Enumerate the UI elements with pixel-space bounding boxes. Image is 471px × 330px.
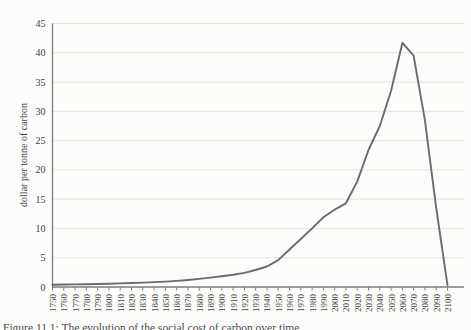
x-tick-label: 1790 (93, 294, 103, 313)
y-tick-label: 10 (36, 223, 46, 234)
x-tick-label: 1980 (308, 294, 318, 313)
carbon-price-chart: 0510152025303540451750176017701780179018… (0, 0, 471, 330)
x-tick-label: 1850 (161, 294, 171, 313)
x-tick-label: 1750 (48, 294, 58, 313)
x-tick-label: 2010 (341, 294, 351, 313)
x-tick-label: 1830 (138, 294, 148, 313)
x-tick-label: 1780 (82, 294, 92, 313)
y-tick-label: 45 (36, 18, 46, 29)
x-tick-label: 1940 (262, 294, 272, 313)
carbon-price-line (53, 43, 448, 285)
x-tick-label: 1840 (150, 294, 160, 313)
y-tick-label: 0 (41, 282, 46, 293)
x-tick-label: 1890 (206, 294, 216, 313)
x-tick-label: 2080 (420, 294, 430, 313)
x-tick-label: 1920 (240, 294, 250, 313)
x-tick-label: 1900 (217, 294, 227, 313)
x-tick-label: 1770 (71, 294, 81, 313)
x-tick-label: 1910 (229, 294, 239, 313)
x-tick-label: 2000 (330, 294, 340, 313)
figure: 0510152025303540451750176017701780179018… (0, 0, 471, 330)
x-tick-label: 1930 (251, 294, 261, 313)
x-tick-label: 1820 (127, 294, 137, 313)
x-tick-label: 2050 (387, 294, 397, 313)
x-tick-label: 2090 (432, 294, 442, 313)
x-tick-label: 1950 (274, 294, 284, 313)
x-tick-label: 2100 (443, 294, 453, 313)
x-tick-label: 1810 (116, 294, 126, 313)
y-tick-label: 30 (36, 106, 46, 117)
x-tick-label: 1760 (59, 294, 69, 313)
x-tick-label: 1860 (172, 294, 182, 313)
x-tick-label: 1970 (296, 294, 306, 313)
x-tick-label: 2070 (409, 294, 419, 313)
x-tick-label: 1880 (195, 294, 205, 313)
y-tick-label: 25 (36, 135, 46, 146)
y-tick-label: 20 (36, 164, 46, 175)
x-tick-label: 2030 (364, 294, 374, 313)
y-tick-label: 35 (36, 77, 46, 88)
y-axis-title: dollar per tonne of carbon (18, 103, 29, 207)
x-tick-label: 2040 (375, 294, 385, 313)
x-tick-label: 2020 (353, 294, 363, 313)
y-tick-label: 40 (36, 47, 46, 58)
x-tick-label: 1960 (285, 294, 295, 313)
y-tick-label: 5 (41, 252, 46, 263)
x-tick-label: 1800 (104, 294, 114, 313)
figure-caption: Figure 11.1: The evolution of the social… (3, 322, 471, 330)
x-tick-label: 1990 (319, 294, 329, 313)
y-tick-label: 15 (36, 194, 46, 205)
x-tick-label: 2060 (398, 294, 408, 313)
x-tick-label: 1870 (183, 294, 193, 313)
